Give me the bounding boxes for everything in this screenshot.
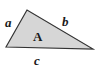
triangle-diagram: a b A c [0, 0, 102, 71]
area-label: A [33, 29, 43, 44]
triangle-shape [6, 10, 93, 49]
side-b-label: b [62, 14, 69, 29]
triangle-figure: a b A c [0, 0, 102, 71]
side-c-label: c [34, 53, 40, 68]
side-a-label: a [5, 15, 12, 30]
